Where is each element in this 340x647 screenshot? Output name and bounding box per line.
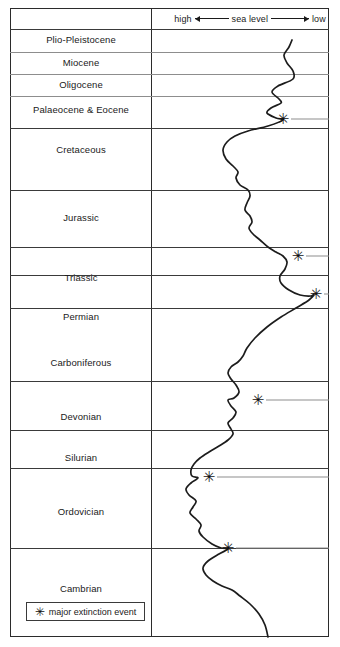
sea-level-chart: high sea level low Plio-Pleistocene Mioc… (0, 0, 340, 647)
chart-header: high sea level low (10, 8, 329, 29)
period-label-cretaceous: Cretaceous (11, 144, 151, 155)
row-separator (10, 29, 329, 30)
legend-label: major extinction event (49, 607, 137, 617)
period-label-ordovician: Ordovician (11, 506, 151, 517)
axis-title: sea level (232, 14, 268, 24)
column-divider (151, 8, 152, 637)
axis-low-label: low (312, 14, 326, 24)
legend-box: ✳ major extinction event (26, 602, 145, 621)
row-separator (10, 74, 329, 75)
period-label-carboniferous: Carboniferous (11, 357, 151, 368)
row-separator (10, 52, 329, 53)
period-label-cambrian: Cambrian (11, 583, 151, 594)
row-separator (10, 430, 329, 431)
period-label-silurian: Silurian (11, 452, 151, 463)
row-separator (10, 548, 329, 549)
row-separator (10, 96, 329, 97)
chart-frame (10, 8, 329, 637)
row-separator (10, 247, 329, 248)
sea-level-axis: high sea level low (161, 8, 339, 29)
period-label-palaeocene-eocene: Palaeocene & Eocene (11, 104, 151, 115)
axis-high-label: high (174, 14, 191, 24)
arrow-left-icon (195, 15, 229, 22)
period-label-plio-pleistocene: Plio-Pleistocene (11, 34, 151, 45)
period-label-permian: Permian (11, 311, 151, 322)
period-label-devonian: Devonian (11, 411, 151, 422)
extinction-star-icon: ✳ (35, 606, 45, 618)
period-label-oligocene: Oligocene (11, 79, 151, 90)
row-separator (10, 381, 329, 382)
period-label-miocene: Miocene (11, 57, 151, 68)
row-separator (10, 308, 329, 309)
row-separator (10, 190, 329, 191)
row-separator (10, 128, 329, 129)
period-label-triassic: Triassic (11, 272, 151, 283)
period-label-jurassic: Jurassic (11, 212, 151, 223)
row-separator (10, 468, 329, 469)
arrow-right-icon (271, 15, 309, 22)
